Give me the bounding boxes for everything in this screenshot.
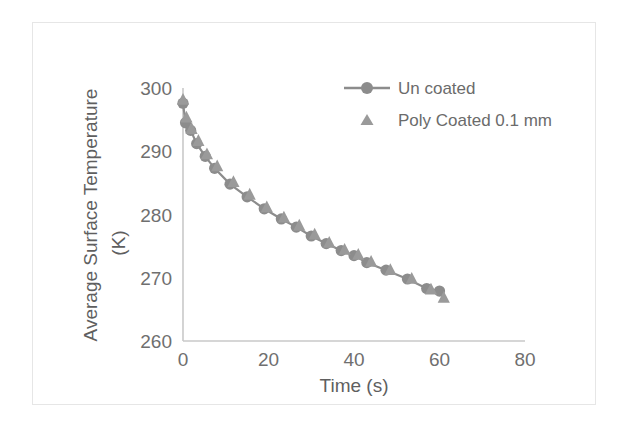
line-chart: 260270280290300 020406080 Time (s) Avera…	[0, 0, 622, 428]
legend-item-uncoated[interactable]: Un coated	[344, 79, 476, 98]
legend-label-uncoated: Un coated	[398, 79, 476, 98]
x-tick-label: 40	[343, 349, 364, 370]
x-tick-labels: 020406080	[178, 349, 536, 370]
figure-container: 260270280290300 020406080 Time (s) Avera…	[0, 0, 622, 428]
x-tick-label: 20	[258, 349, 279, 370]
x-tick-label: 0	[178, 349, 189, 370]
legend-triangle-marker-icon	[361, 114, 374, 125]
data-point-triangle	[180, 111, 192, 123]
x-tick-label: 60	[429, 349, 450, 370]
legend-circle-marker-icon	[361, 82, 373, 94]
y-tick-label: 280	[140, 205, 172, 226]
x-axis-title: Time (s)	[320, 375, 389, 396]
series-line	[183, 103, 440, 291]
x-tick-label: 80	[514, 349, 535, 370]
legend-item-polycoated[interactable]: Poly Coated 0.1 mm	[361, 111, 553, 130]
y-tick-label: 290	[140, 141, 172, 162]
chart-legend: Un coated Poly Coated 0.1 mm	[344, 79, 552, 130]
y-axis-title-line1: Average Surface Temperature	[80, 89, 101, 342]
y-tick-label: 300	[140, 78, 172, 99]
y-tick-labels: 260270280290300	[140, 78, 172, 352]
data-point-triangle	[177, 93, 189, 105]
y-axis-title-line2: (K)	[108, 230, 129, 255]
y-tick-label: 260	[140, 331, 172, 352]
legend-label-polycoated: Poly Coated 0.1 mm	[398, 111, 552, 130]
y-tick-label: 270	[140, 268, 172, 289]
